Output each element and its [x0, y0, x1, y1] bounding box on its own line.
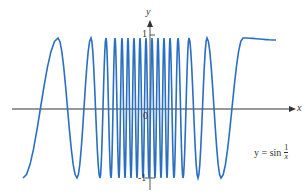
x-axis-label: x: [297, 102, 301, 113]
y-axis-arrow-icon: [147, 20, 153, 27]
plot-area: [0, 0, 305, 194]
fraction-denominator: x: [285, 153, 289, 161]
function-label: y = sin 1 x: [254, 144, 288, 161]
x-axis-arrow-icon: [289, 106, 296, 112]
ytick-label-1: 1: [142, 28, 147, 39]
y-axis-label: y: [146, 6, 150, 17]
ytick-label-minus-1: -1: [138, 172, 146, 183]
equation-lhs: y = sin: [254, 147, 281, 158]
origin-label: 0: [143, 110, 148, 121]
